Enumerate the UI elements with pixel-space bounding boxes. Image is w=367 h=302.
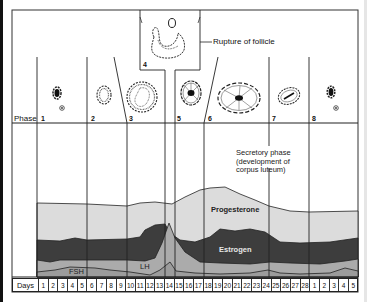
phase-7-label: 7 <box>272 115 276 122</box>
ovarian-cycle-diagram <box>0 0 367 302</box>
follicle-phase-2 <box>97 86 111 104</box>
day-cell: 10 <box>125 279 135 291</box>
fsh-label: FSH <box>69 268 84 276</box>
day-cell: 27 <box>290 279 300 291</box>
day-cell: 15 <box>174 279 184 291</box>
day-cell: 3 <box>57 279 67 291</box>
corpus-luteum-phase-5 <box>181 81 201 105</box>
phase-2-label: 2 <box>91 115 95 122</box>
follicle-phase-1 <box>53 87 64 110</box>
day-cell: 5 <box>77 279 87 291</box>
estrogen-label: Estrogen <box>219 246 252 254</box>
day-cell: 6 <box>86 279 96 291</box>
progesterone-label: Progesterone <box>211 206 259 214</box>
days-row: Days 1 2 3 4 5 6 7 8 9 10 11 12 13 14 15… <box>12 278 358 292</box>
day-cell: 5 <box>348 279 358 291</box>
days-label: Days <box>13 279 38 291</box>
day-cell: 8 <box>106 279 116 291</box>
corpus-albicans-phase-7 <box>276 85 302 108</box>
day-cell: 13 <box>154 279 164 291</box>
secretory-note-line-3: corpus luteum) <box>236 166 291 175</box>
phase-3-label: 3 <box>129 115 133 122</box>
follicle-phase-8 <box>327 86 338 110</box>
day-cell: 18 <box>203 279 213 291</box>
phase-1-label: 1 <box>41 115 45 122</box>
lh-label: LH <box>140 263 150 271</box>
day-cell: 4 <box>67 279 77 291</box>
day-cell: 17 <box>193 279 203 291</box>
day-cell: 16 <box>183 279 193 291</box>
day-cell: 1 <box>309 279 319 291</box>
day-cell: 21 <box>232 279 242 291</box>
day-cell: 20 <box>222 279 232 291</box>
secretory-phase-note: Secretory phase (development of corpus l… <box>236 149 291 175</box>
day-cell: 4 <box>338 279 348 291</box>
day-cell: 23 <box>251 279 261 291</box>
day-cell: 9 <box>116 279 126 291</box>
phase-6-label: 6 <box>208 115 212 122</box>
day-cell: 19 <box>212 279 222 291</box>
follicle-phase-3 <box>127 82 157 112</box>
phase-5-label: 5 <box>177 115 181 122</box>
day-cell: 7 <box>96 279 106 291</box>
corpus-luteum-phase-6 <box>218 83 260 113</box>
follicle-phase-4-rupture <box>152 19 185 59</box>
day-cell: 1 <box>38 279 48 291</box>
day-cell: 3 <box>329 279 339 291</box>
day-cell: 26 <box>280 279 290 291</box>
phase-row-label: Phase <box>14 115 37 123</box>
phase-8-label: 8 <box>312 115 316 122</box>
day-cell: 11 <box>135 279 145 291</box>
day-cell: 14 <box>164 279 174 291</box>
day-cell: 25 <box>271 279 281 291</box>
rupture-of-follicle-label: Rupture of follicle <box>213 38 275 46</box>
day-cell: 2 <box>319 279 329 291</box>
day-cell: 24 <box>261 279 271 291</box>
day-cell: 2 <box>48 279 58 291</box>
day-cell: 28 <box>300 279 310 291</box>
day-cell: 22 <box>241 279 251 291</box>
day-cell: 12 <box>145 279 155 291</box>
phase-4-label: 4 <box>143 61 147 68</box>
